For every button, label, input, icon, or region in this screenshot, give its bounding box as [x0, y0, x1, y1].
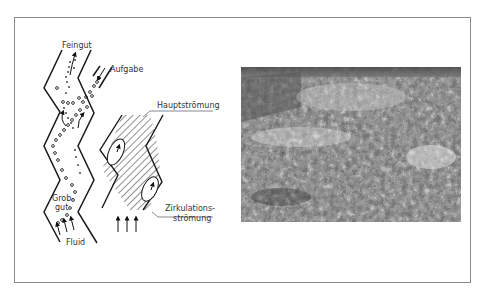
upward-flow-arrows: [118, 218, 136, 232]
waste-heap-photo: [241, 67, 461, 222]
label-circulation-2: strömung: [173, 214, 211, 223]
label-fluid: Fluid: [66, 238, 85, 247]
label-fine: Feingut: [62, 41, 92, 50]
label-main-flow: Hauptströmung: [157, 101, 220, 110]
label-feed: Aufgabe: [110, 65, 143, 74]
label-coarse-1: Grob-: [52, 194, 74, 203]
label-circulation-1: Zirkulations-: [165, 204, 215, 213]
label-coarse-2: gut: [55, 203, 68, 212]
